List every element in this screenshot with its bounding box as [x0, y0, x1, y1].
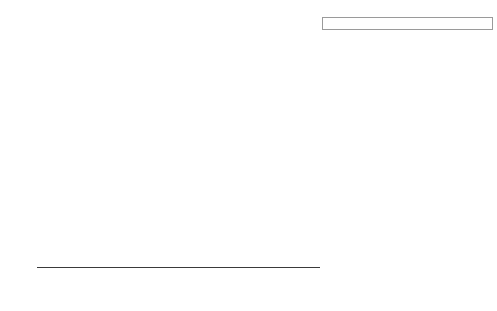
stacked-areas — [37, 22, 320, 268]
plot-area — [37, 22, 320, 268]
areas-svg — [37, 22, 320, 268]
chart-root — [0, 0, 497, 311]
x-axis-labels — [37, 273, 320, 311]
chart-legend — [322, 17, 493, 30]
